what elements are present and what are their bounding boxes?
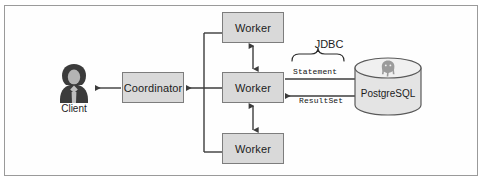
jdbc-label: JDBC [294,38,364,50]
database-cylinder [355,58,421,115]
resultset-label: ResultSet [299,96,343,105]
statement-label: Statement [293,67,337,76]
node-worker-top[interactable]: Worker [222,12,284,43]
node-worker-middle[interactable]: Worker [222,72,284,103]
worker-middle-label: Worker [235,82,271,94]
worker-bottom-label: Worker [235,143,271,155]
client-label: Client [46,103,102,114]
coordinator-label: Coordinator [124,82,183,94]
edge-workers-to-coordinator [186,33,222,152]
user-avatar-icon [60,64,88,103]
node-worker-bottom[interactable]: Worker [222,133,284,164]
node-coordinator[interactable]: Coordinator [122,72,184,103]
worker-top-label: Worker [235,22,271,34]
diagram-canvas: Coordinator Worker Worker Worker Client … [0,0,486,184]
